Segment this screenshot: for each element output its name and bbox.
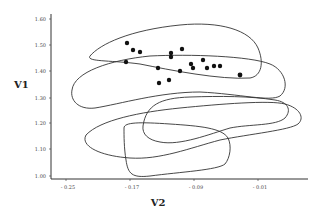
x-tick-label: - 0.17 <box>125 184 139 190</box>
data-point <box>238 73 243 78</box>
x-ticks: - 0.25 - 0.17 - 0.09 - 0.01 <box>61 179 267 190</box>
data-point <box>131 48 135 52</box>
data-point <box>169 51 173 55</box>
y-tick-label: 1.50 <box>35 42 46 48</box>
data-point <box>178 69 182 73</box>
x-tick-label: - 0.25 <box>61 184 75 190</box>
x-axis-title: V2 <box>150 197 166 208</box>
y-tick-label: 1.60 <box>35 16 46 22</box>
data-point <box>124 60 128 64</box>
contours <box>72 24 301 176</box>
y-tick-label: 1.20 <box>35 120 46 126</box>
x-tick-label: - 0.09 <box>189 184 203 190</box>
data-point <box>205 66 209 70</box>
y-axis-title: V1 <box>13 79 29 90</box>
data-point <box>157 81 161 85</box>
y-tick-label: 1.10 <box>35 146 46 152</box>
data-point <box>180 47 184 51</box>
scatter-chart: 1.60 1.50 1.40 1.30 1.20 1.10 1.00 - 0.2… <box>0 0 318 213</box>
data-point <box>212 64 216 68</box>
contour-2 <box>72 55 286 108</box>
y-tick-label: 1.30 <box>35 95 46 101</box>
data-point <box>156 66 160 70</box>
contour-5 <box>124 123 230 177</box>
data-point <box>189 62 193 66</box>
contour-1 <box>90 24 262 78</box>
x-tick-label: - 0.01 <box>253 184 267 190</box>
y-ticks: 1.60 1.50 1.40 1.30 1.20 1.10 1.00 <box>35 16 51 179</box>
y-tick-label: 1.40 <box>35 68 46 74</box>
data-point <box>138 50 142 54</box>
data-point <box>218 64 222 68</box>
y-tick-label: 1.00 <box>35 173 46 179</box>
data-point <box>167 78 171 82</box>
data-point <box>169 55 173 59</box>
contour-4 <box>143 96 289 142</box>
data-points <box>124 41 243 85</box>
data-point <box>191 66 195 70</box>
contour-3 <box>85 102 301 158</box>
data-point <box>201 58 205 62</box>
data-point <box>125 41 129 45</box>
